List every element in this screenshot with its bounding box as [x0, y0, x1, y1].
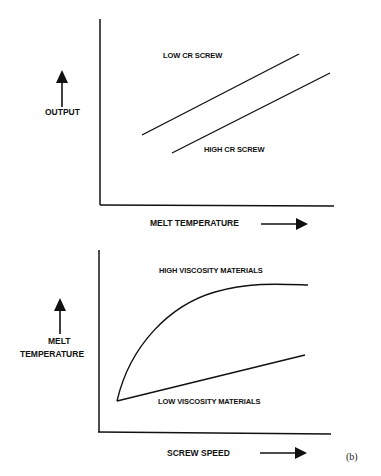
low-viscosity-label: LOW VISCOSITY MATERIALS [158, 397, 261, 406]
up-arrow-icon [54, 298, 66, 334]
high-viscosity-curve [117, 284, 308, 401]
right-arrow-icon [261, 218, 308, 230]
melt-temperature-axis-label: MELT TEMPERATURE [150, 218, 239, 228]
temperature-axis-label: TEMPERATURE [20, 349, 84, 359]
top-plot: LOW CR SCREW HIGH CR SCREW OUTPUT MELT T… [45, 19, 334, 230]
top-x-axis [100, 205, 334, 206]
bottom-plot: HIGH VISCOSITY MATERIALS LOW VISCOSITY M… [20, 250, 358, 463]
high-cr-screw-label: HIGH CR SCREW [204, 145, 265, 154]
panel-label: (b) [346, 451, 358, 463]
output-axis-label: OUTPUT [45, 107, 81, 117]
diagram-canvas: LOW CR SCREW HIGH CR SCREW OUTPUT MELT T… [0, 0, 381, 476]
high-viscosity-label: HIGH VISCOSITY MATERIALS [159, 266, 263, 275]
high-cr-screw-line [172, 73, 330, 153]
low-cr-screw-line [142, 54, 299, 135]
up-arrow-icon [56, 70, 68, 107]
screw-speed-axis-label: SCREW SPEED [167, 448, 230, 458]
low-cr-screw-label: LOW CR SCREW [163, 51, 223, 60]
melt-axis-label: MELT [48, 336, 71, 346]
bottom-x-axis [98, 432, 331, 434]
right-arrow-icon [260, 447, 307, 459]
low-viscosity-line [117, 355, 305, 401]
